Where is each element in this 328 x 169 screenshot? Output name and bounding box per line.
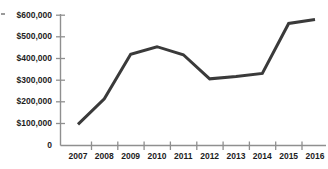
- x-axis-label-group: 2007200820092010201120122013201420152016: [0, 0, 328, 169]
- line-chart: 0$100,000$200,000$300,000$400,000$500,00…: [0, 0, 328, 169]
- x-axis-tick-label: 2014: [248, 152, 276, 161]
- x-axis-tick-label: 2013: [222, 152, 250, 161]
- x-axis-tick-label: 2008: [90, 152, 118, 161]
- x-axis-tick-label: 2009: [117, 152, 145, 161]
- x-axis-tick-label: 2012: [196, 152, 224, 161]
- x-axis-tick-label: 2011: [169, 152, 197, 161]
- x-axis-tick-label: 2010: [143, 152, 171, 161]
- x-axis-tick-label: 2007: [64, 152, 92, 161]
- x-axis-tick-label: 2016: [301, 152, 328, 161]
- x-axis-tick-label: 2015: [275, 152, 303, 161]
